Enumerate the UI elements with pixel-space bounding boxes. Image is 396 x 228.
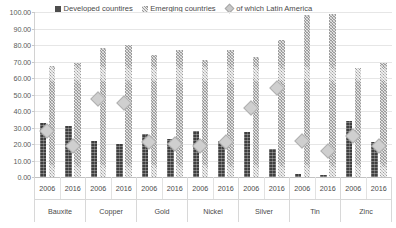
bar-pair <box>239 12 265 177</box>
x-axis-year-label: 2006 <box>341 177 366 199</box>
bar-pair <box>86 12 112 177</box>
x-axis-group: 20062016Tin <box>290 177 341 222</box>
bar-developed <box>116 144 123 177</box>
x-axis-year-label: 2016 <box>315 177 341 199</box>
legend-swatch-emerging-icon <box>142 6 148 12</box>
grouped-bar-chart: Developed countires Emerging countries o… <box>0 0 396 228</box>
x-axis-year-label: 2006 <box>86 177 111 199</box>
bar-pair <box>214 12 240 177</box>
bar-emerging <box>355 68 362 177</box>
x-axis-year-label: 2016 <box>111 177 137 199</box>
bar-pair <box>367 12 393 177</box>
x-axis-category-label: Gold <box>137 199 187 222</box>
bar-pair <box>341 12 367 177</box>
y-axis-tick-label: 40.00 <box>14 107 32 116</box>
x-axis-year-label: 2006 <box>239 177 264 199</box>
x-axis-year-label: 2006 <box>137 177 162 199</box>
bar-emerging <box>227 50 234 177</box>
bar-emerging <box>278 40 285 177</box>
x-axis-group: 20062016Copper <box>86 177 137 222</box>
bar-pair <box>188 12 214 177</box>
bar-developed <box>193 131 200 177</box>
bar-emerging <box>125 45 132 177</box>
x-axis-group: 20062016Silver <box>239 177 290 222</box>
legend-swatch-developed-icon <box>55 6 61 12</box>
bar-emerging <box>176 50 183 177</box>
bar-pair <box>290 12 316 177</box>
x-axis-year-label: 2006 <box>35 177 60 199</box>
bar-emerging <box>380 63 387 177</box>
x-axis-group: 20062016Bauxite <box>34 177 86 222</box>
x-axis-categories: 20062016Bauxite20062016Copper20062016Gol… <box>34 177 392 222</box>
bar-group <box>35 12 86 177</box>
y-axis-tick-label: 60.00 <box>14 74 32 83</box>
bar-series-container <box>35 12 392 177</box>
x-axis-category-label: Bauxite <box>35 199 85 222</box>
x-axis-category-label: Nickel <box>188 199 238 222</box>
bar-group <box>188 12 239 177</box>
x-axis-category-label: Zinc <box>341 199 391 222</box>
y-axis-tick-label: 80.00 <box>14 41 32 50</box>
y-axis-tick-label: 70.00 <box>14 57 32 66</box>
x-axis-category-label: Silver <box>239 199 289 222</box>
y-axis-tick-label: 50.00 <box>14 90 32 99</box>
bar-emerging <box>74 63 81 177</box>
bar-pair <box>61 12 87 177</box>
x-axis-year-label: 2016 <box>60 177 86 199</box>
bar-developed <box>269 149 276 177</box>
y-axis-tick-label: 30.00 <box>14 123 32 132</box>
bar-developed <box>244 132 251 177</box>
x-axis-year-label: 2016 <box>213 177 239 199</box>
x-axis-year-label: 2016 <box>264 177 290 199</box>
bar-pair <box>35 12 61 177</box>
y-axis-tick-label: 20.00 <box>14 140 32 149</box>
x-axis-year-label: 2006 <box>188 177 213 199</box>
bar-emerging <box>202 60 209 177</box>
bar-pair <box>265 12 291 177</box>
bar-pair <box>163 12 189 177</box>
bar-emerging <box>304 15 311 177</box>
x-axis-year-label: 2006 <box>290 177 315 199</box>
bar-group <box>239 12 290 177</box>
bar-emerging <box>100 48 107 177</box>
x-axis-year-label: 2016 <box>162 177 188 199</box>
bar-emerging <box>151 55 158 177</box>
bar-pair <box>112 12 138 177</box>
y-axis-tick-label: 100.00 <box>10 8 31 17</box>
bar-developed <box>91 141 98 177</box>
y-axis-tick-label: 10.00 <box>14 156 32 165</box>
plot-area <box>34 12 392 177</box>
bar-group <box>290 12 341 177</box>
y-axis-tick-label: 90.00 <box>14 24 32 33</box>
bar-emerging <box>253 57 260 177</box>
bar-pair <box>137 12 163 177</box>
x-axis-group: 20062016Nickel <box>188 177 239 222</box>
bar-group <box>86 12 137 177</box>
x-axis-category-label: Tin <box>290 199 340 222</box>
x-axis-group: 20062016Gold <box>137 177 188 222</box>
bar-group <box>137 12 188 177</box>
x-axis-year-label: 2016 <box>366 177 392 199</box>
bar-group <box>341 12 392 177</box>
bar-emerging <box>49 66 56 177</box>
x-axis-group: 20062016Zinc <box>341 177 392 222</box>
y-axis-labels: 100.0090.0080.0070.0060.0050.0040.0030.0… <box>0 0 34 228</box>
x-axis-category-label: Copper <box>86 199 136 222</box>
bar-pair <box>316 12 342 177</box>
y-axis-tick-label: 0.00 <box>17 173 31 182</box>
